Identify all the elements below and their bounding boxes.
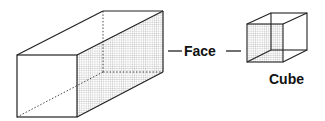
prism-shaded-face (77, 11, 163, 117)
face-label-group: Face (168, 43, 241, 59)
face-cube-diagram: Face Cube (0, 0, 325, 121)
cube-label: Cube (269, 71, 304, 87)
face-label: Face (184, 43, 216, 59)
rectangular-prism (17, 11, 163, 117)
cube-shaded-face (247, 24, 283, 62)
cube (247, 13, 307, 62)
